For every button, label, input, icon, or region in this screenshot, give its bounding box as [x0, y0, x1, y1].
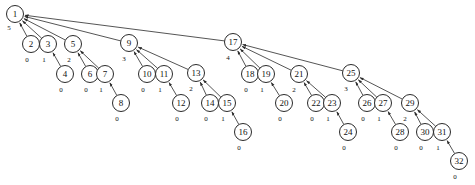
tree-node-10[interactable]: 100 — [139, 66, 156, 94]
node-label-27: 27 — [379, 98, 389, 108]
tree-edge-25-to-17 — [243, 45, 343, 71]
node-count-18: 0 — [244, 86, 248, 94]
node-count-11: 1 — [158, 86, 162, 94]
node-layer: 1520314052607180931001111201321401511601… — [7, 6, 468, 181]
node-label-29: 29 — [406, 98, 416, 108]
node-label-26: 26 — [363, 98, 373, 108]
node-count-5: 2 — [67, 56, 71, 64]
tree-diagram-canvas: 1520314052607180931001111201321401511601… — [0, 0, 475, 185]
node-label-2: 2 — [29, 39, 34, 49]
node-count-4: 0 — [59, 86, 63, 94]
node-count-13: 2 — [189, 85, 193, 93]
node-label-24: 24 — [344, 127, 354, 137]
tree-node-21[interactable]: 212 — [291, 66, 308, 94]
tree-node-24[interactable]: 240 — [340, 124, 357, 152]
node-label-30: 30 — [421, 127, 431, 137]
tree-node-11[interactable]: 111 — [156, 66, 173, 94]
node-count-32: 0 — [453, 173, 457, 181]
tree-node-8[interactable]: 80 — [113, 95, 130, 123]
node-label-1: 1 — [13, 9, 18, 19]
tree-node-12[interactable]: 120 — [173, 95, 190, 123]
node-label-3: 3 — [46, 39, 51, 49]
tree-edge-2-to-1 — [20, 23, 27, 37]
node-count-28: 0 — [394, 144, 398, 152]
node-count-17: 4 — [226, 54, 230, 62]
node-label-18: 18 — [246, 69, 256, 79]
tree-node-17[interactable]: 174 — [225, 34, 242, 62]
tree-node-22[interactable]: 220 — [308, 95, 325, 123]
node-count-23: 1 — [326, 115, 330, 123]
node-count-1: 5 — [7, 24, 11, 32]
tree-node-14[interactable]: 140 — [202, 95, 219, 123]
node-count-24: 0 — [342, 144, 346, 152]
node-label-8: 8 — [119, 98, 124, 108]
node-label-10: 10 — [143, 69, 153, 79]
node-label-22: 22 — [312, 98, 321, 108]
tree-node-6[interactable]: 60 — [82, 66, 99, 94]
tree-node-13[interactable]: 132 — [188, 65, 205, 93]
tree-node-15[interactable]: 151 — [219, 95, 236, 123]
node-label-23: 23 — [328, 98, 338, 108]
tree-diagram-figure: 1520314052607180931001111201321401511601… — [0, 0, 475, 185]
node-count-26: 0 — [361, 115, 365, 123]
node-label-9: 9 — [127, 38, 132, 48]
node-count-30: 0 — [419, 144, 423, 152]
node-label-12: 12 — [177, 98, 186, 108]
node-count-8: 0 — [115, 115, 119, 123]
tree-node-3[interactable]: 31 — [40, 36, 57, 64]
tree-node-32[interactable]: 320 — [451, 153, 468, 181]
node-count-7: 1 — [99, 86, 103, 94]
node-count-29: 2 — [403, 115, 407, 123]
tree-node-25[interactable]: 253 — [343, 65, 360, 93]
node-label-7: 7 — [103, 69, 108, 79]
node-count-14: 0 — [204, 115, 208, 123]
node-count-27: 1 — [377, 115, 381, 123]
tree-edge-26-to-25 — [356, 82, 363, 96]
node-count-3: 1 — [42, 56, 46, 64]
node-label-5: 5 — [71, 39, 76, 49]
tree-edge-20-to-19 — [271, 83, 279, 96]
tree-node-23[interactable]: 231 — [324, 95, 341, 123]
node-label-21: 21 — [295, 69, 304, 79]
tree-node-4[interactable]: 40 — [57, 66, 74, 94]
tree-edge-4-to-3 — [53, 53, 61, 67]
node-count-6: 0 — [84, 86, 88, 94]
tree-node-28[interactable]: 280 — [392, 124, 409, 152]
tree-node-7[interactable]: 71 — [97, 66, 114, 94]
node-label-19: 19 — [262, 69, 272, 79]
tree-node-9[interactable]: 93 — [121, 35, 138, 63]
node-label-20: 20 — [280, 98, 290, 108]
node-label-14: 14 — [206, 98, 216, 108]
node-count-20: 0 — [278, 115, 282, 123]
tree-node-29[interactable]: 292 — [402, 95, 419, 123]
tree-edge-24-to-23 — [337, 112, 344, 125]
tree-node-19[interactable]: 191 — [258, 66, 275, 94]
tree-node-1[interactable]: 15 — [7, 6, 24, 32]
tree-node-16[interactable]: 160 — [235, 124, 252, 152]
tree-node-31[interactable]: 311 — [434, 124, 451, 152]
tree-edge-30-to-29 — [415, 112, 422, 125]
node-count-15: 1 — [221, 115, 225, 123]
node-label-15: 15 — [223, 98, 233, 108]
node-count-9: 3 — [122, 55, 126, 63]
tree-node-27[interactable]: 271 — [375, 95, 392, 123]
node-count-16: 0 — [237, 144, 241, 152]
tree-node-20[interactable]: 200 — [276, 95, 293, 123]
node-count-22: 0 — [310, 115, 314, 123]
node-count-12: 0 — [175, 115, 179, 123]
node-count-31: 1 — [436, 144, 440, 152]
tree-node-2[interactable]: 20 — [23, 36, 40, 64]
tree-edge-8-to-7 — [110, 83, 117, 96]
node-label-32: 32 — [455, 156, 464, 166]
node-label-16: 16 — [239, 127, 249, 137]
tree-node-18[interactable]: 180 — [242, 66, 259, 94]
node-label-25: 25 — [347, 68, 357, 78]
tree-node-30[interactable]: 300 — [417, 124, 434, 152]
tree-node-5[interactable]: 52 — [65, 36, 82, 64]
node-count-25: 3 — [344, 85, 348, 93]
tree-node-26[interactable]: 260 — [359, 95, 376, 123]
tree-edge-16-to-15 — [232, 112, 239, 125]
node-label-31: 31 — [438, 127, 447, 137]
tree-edge-32-to-31 — [447, 141, 455, 154]
node-label-6: 6 — [88, 69, 93, 79]
